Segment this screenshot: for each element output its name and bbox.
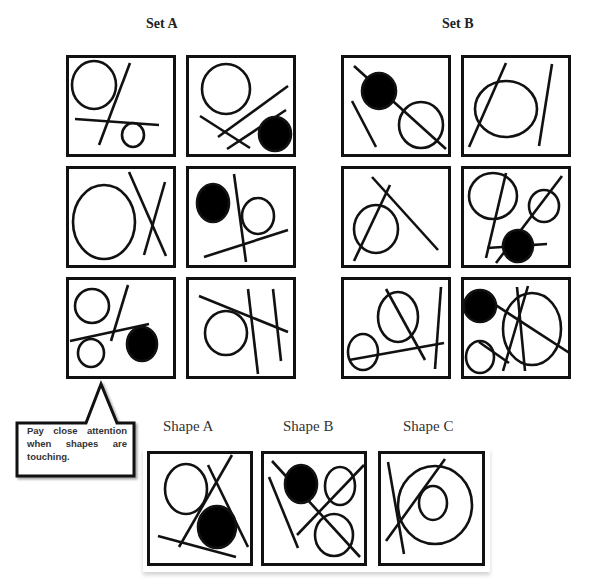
filled-circle-shape — [127, 327, 157, 361]
set-a-panel-a6 — [186, 277, 296, 379]
set-b-panel-b4 — [461, 166, 571, 268]
set-a-panel-a4 — [186, 166, 296, 268]
filled-circle-shape — [464, 290, 496, 322]
filled-circle-shape — [198, 506, 236, 548]
shape-a-label: Shape A — [163, 418, 213, 435]
shape-c-option[interactable] — [378, 451, 485, 566]
shape-a-option[interactable] — [147, 451, 253, 566]
filled-circle-shape — [259, 117, 291, 151]
set-a-panel-a3 — [66, 166, 176, 268]
set-b-panel-b1 — [341, 55, 451, 157]
set-a-panel-a1 — [66, 55, 176, 157]
set-b-panel-b5 — [341, 277, 451, 379]
set-b-panel-b6 — [461, 277, 571, 379]
set-b-title: Set B — [442, 16, 474, 32]
set-a-panel-a5 — [66, 277, 176, 379]
filled-circle-shape — [197, 184, 229, 222]
shape-b-option[interactable] — [261, 451, 367, 566]
panel-frame — [463, 57, 570, 156]
shape-c-label: Shape C — [403, 418, 453, 435]
filled-circle-shape — [362, 73, 396, 109]
panel-frame — [68, 279, 175, 378]
set-b-panel-b3 — [341, 166, 451, 268]
filled-circle-shape — [503, 230, 533, 262]
shape-b-label: Shape B — [283, 418, 333, 435]
callout-text: Pay close attention when shapes are touc… — [27, 424, 127, 463]
set-a-panel-a2 — [186, 55, 296, 157]
set-a-title: Set A — [146, 16, 178, 32]
set-b-panel-b2 — [461, 55, 571, 157]
filled-circle-shape — [285, 465, 317, 503]
